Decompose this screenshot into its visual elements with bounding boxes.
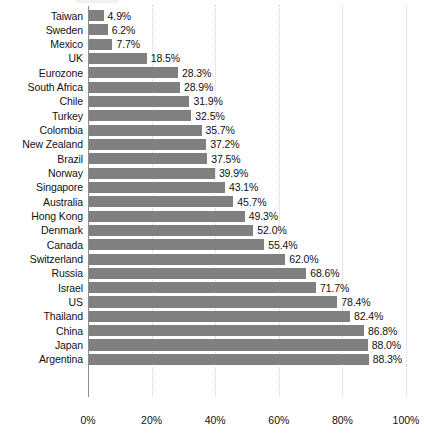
category-label: Chile [0,94,83,108]
bar-value-label: 52.0% [257,223,286,237]
bar-value-label: 6.2% [112,23,136,37]
bar-row: Sweden6.2% [0,23,424,37]
bar [89,282,316,293]
bar [89,296,337,307]
bar-value-label: 78.4% [341,295,370,309]
bar [89,67,178,78]
category-label: Japan [0,338,83,352]
bar-value-label: 82.4% [354,309,383,323]
bar-value-label: 7.7% [116,37,140,51]
category-label: Hong Kong [0,209,83,223]
x-tick-label: 80% [332,414,353,426]
bar-value-label: 28.9% [184,80,213,94]
bar-value-label: 31.9% [193,94,222,108]
bar-value-label: 39.9% [219,166,248,180]
bar [89,311,350,322]
bar-row: South Africa28.9% [0,80,424,94]
category-label: Denmark [0,223,83,237]
bar [89,82,180,93]
bar-value-label: 45.7% [237,195,266,209]
bar-row: Japan88.0% [0,338,424,352]
bar-row: Denmark52.0% [0,223,424,237]
category-label: Taiwan [0,9,83,23]
bar-value-label: 37.2% [210,137,239,151]
bar-row: Australia45.7% [0,195,424,209]
bar-value-label: 43.1% [229,180,258,194]
bar [89,225,253,236]
bar [89,325,364,336]
category-label: Canada [0,238,83,252]
bar-chart: Taiwan4.9%Sweden6.2%Mexico7.7%UK18.5%Eur… [0,0,424,447]
category-label: Argentina [0,352,83,366]
bar-row: Argentina88.3% [0,352,424,366]
bar [89,196,233,207]
x-tick-label: 40% [205,414,226,426]
bar-row: Eurozone28.3% [0,66,424,80]
bar-value-label: 28.3% [182,66,211,80]
bar [89,125,202,136]
bar [89,254,285,265]
category-label: Brazil [0,152,83,166]
bar [89,182,225,193]
bar-row: Russia68.6% [0,266,424,280]
bar-value-label: 49.3% [249,209,278,223]
bar-row: Chile31.9% [0,94,424,108]
x-tick-label: 0% [80,414,95,426]
bar [89,168,215,179]
bar-row: Hong Kong49.3% [0,209,424,223]
bar-row: Thailand82.4% [0,309,424,323]
bar-row: Israel71.7% [0,281,424,295]
bar [89,139,206,150]
bar-value-label: 4.9% [108,9,132,23]
bar-row: Brazil37.5% [0,152,424,166]
bar-value-label: 32.5% [195,109,224,123]
x-tick-label: 20% [141,414,162,426]
bar-value-label: 88.3% [373,352,402,366]
x-tick-label: 60% [268,414,289,426]
x-tick-label: 100% [393,414,420,426]
bar-value-label: 18.5% [151,51,180,65]
bar-row: Switzerland62.0% [0,252,424,266]
category-label: New Zealand [0,137,83,151]
bar-row: Norway39.9% [0,166,424,180]
category-label: Norway [0,166,83,180]
bar [89,153,207,164]
category-label: South Africa [0,80,83,94]
category-label: Switzerland [0,252,83,266]
bar [89,239,264,250]
category-label: Mexico [0,37,83,51]
category-label: China [0,324,83,338]
bar-row: Colombia35.7% [0,123,424,137]
bar-row: Canada55.4% [0,238,424,252]
bar [89,110,191,121]
bar-row: China86.8% [0,324,424,338]
bar-row: Turkey32.5% [0,109,424,123]
bar-row: US78.4% [0,295,424,309]
bar [89,10,104,21]
bar-value-label: 37.5% [211,152,240,166]
category-label: Turkey [0,109,83,123]
bar-value-label: 55.4% [268,238,297,252]
category-label: Sweden [0,23,83,37]
bar [89,96,189,107]
category-label: Thailand [0,309,83,323]
category-label: US [0,295,83,309]
bar-value-label: 88.0% [372,338,401,352]
plot-area: Taiwan4.9%Sweden6.2%Mexico7.7%UK18.5%Eur… [0,0,424,404]
bar-value-label: 71.7% [320,281,349,295]
category-label: Singapore [0,180,83,194]
bar [89,339,368,350]
bar [89,211,245,222]
bar-value-label: 62.0% [289,252,318,266]
x-axis: 0%20%40%60%80%100% [0,404,424,434]
bar-value-label: 86.8% [368,324,397,338]
bar [89,354,369,365]
bar [89,53,147,64]
bar-row: UK18.5% [0,51,424,65]
category-label: Israel [0,281,83,295]
category-label: Australia [0,195,83,209]
bar-value-label: 68.6% [310,266,339,280]
category-label: Eurozone [0,66,83,80]
bar-value-label: 35.7% [206,123,235,137]
bar [89,24,108,35]
